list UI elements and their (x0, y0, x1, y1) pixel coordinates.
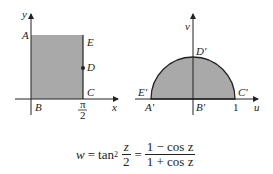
x-axis-label: x (111, 101, 117, 113)
formula-lhs: w (76, 147, 85, 163)
frac2-denominator: 1 + cos z (145, 155, 196, 169)
mapping-formula: w = tan2 z 2 = 1 − cos z 1 + cos z (76, 140, 198, 169)
u-axis-label: u (254, 101, 260, 113)
formula-equals-2: = (134, 147, 141, 163)
label-c: C (87, 86, 95, 98)
label-c-prime: C' (238, 86, 248, 98)
shaded-strip (31, 35, 83, 99)
label-e-prime: E' (137, 86, 148, 98)
tick-one: 1 (233, 101, 239, 113)
formula-tan: tan (98, 147, 114, 163)
point-d (81, 66, 85, 70)
label-a-prime: A' (144, 101, 155, 113)
label-a: A (21, 29, 29, 41)
label-e: E (86, 36, 94, 48)
label-d-prime: D' (195, 45, 207, 57)
label-b: B (35, 101, 42, 113)
frac2-numerator: 1 − cos z (145, 140, 196, 155)
y-axis-label: y (21, 8, 27, 20)
label-b-prime: B' (196, 101, 206, 113)
label-d: D (86, 61, 95, 73)
right-figure: v u D' E' A' B' C' 1 (135, 14, 260, 115)
frac1-numerator: z (122, 140, 131, 155)
v-axis-label: v (185, 20, 190, 32)
formula-exponent: 2 (114, 150, 118, 159)
formula-equals-1: = (88, 147, 95, 163)
frac1-denominator: 2 (121, 155, 132, 169)
fraction-z-over-2: z 2 (121, 140, 132, 169)
fraction-cos: 1 − cos z 1 + cos z (145, 140, 196, 169)
tick-pi-denominator: 2 (80, 109, 86, 121)
left-figure: y x A E D C B π 2 (15, 8, 118, 121)
